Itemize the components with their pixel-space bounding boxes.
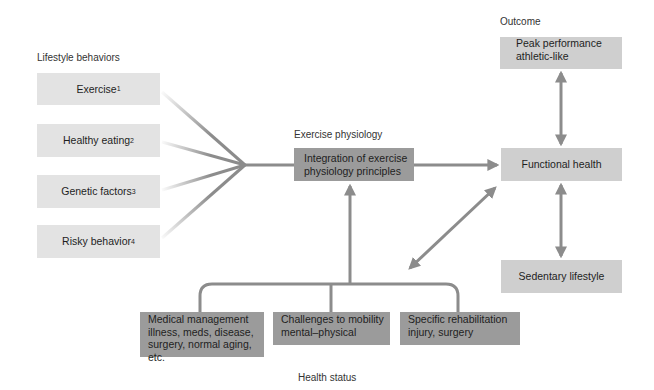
health-box-specific-rehabilitation: Specific rehabilitation injury, surgery (400, 312, 520, 345)
health-box-mobility-challenges: Challenges to mobility mental–physical (273, 312, 390, 345)
physiology-section-label: Exercise physiology (294, 129, 382, 140)
outcome-section-label: Outcome (500, 16, 541, 27)
lifestyle-box-genetic-factors: Genetic factors3 (37, 175, 160, 208)
outcome-box-sedentary-lifestyle: Sedentary lifestyle (501, 260, 622, 293)
lifestyle-section-label: Lifestyle behaviors (37, 52, 120, 63)
lifestyle-box-exercise: Exercise1 (37, 73, 160, 105)
lifestyle-box-healthy-eating: Healthy eating2 (37, 124, 160, 157)
health-box-medical-management: Medical management illness, meds, diseas… (140, 312, 264, 357)
lifestyle-box-risky-behavior: Risky behavior4 (37, 225, 160, 258)
health-status-section-label: Health status (298, 372, 356, 383)
outcome-box-functional-health: Functional health (501, 148, 622, 181)
outcome-box-peak-performance: Peak performance athletic-like (500, 37, 622, 69)
physiology-integration-box: Integration of exercise physiology princ… (294, 148, 414, 181)
